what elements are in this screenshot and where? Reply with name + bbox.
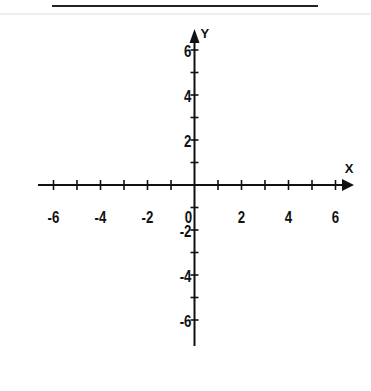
x-axis-tick-labels: -6-4-20246: [48, 207, 340, 226]
y-tick-label: -4: [180, 266, 192, 285]
x-axis-arrowhead-icon: [342, 179, 354, 191]
y-tick-label: 2: [184, 131, 191, 150]
x-tick-label: -2: [142, 207, 154, 226]
x-tick-label: 4: [285, 207, 293, 226]
x-axis: -6-4-20246 X: [38, 161, 354, 226]
x-tick-label: -4: [95, 207, 107, 226]
x-tick-label: 2: [238, 207, 245, 226]
y-tick-label: -2: [180, 221, 192, 240]
coordinate-plane: -6-4-20246 X 642-2-4-6 Y: [0, 0, 371, 391]
y-tick-label: 6: [184, 41, 191, 60]
y-axis-label: Y: [201, 26, 210, 41]
x-tick-label: -6: [48, 207, 60, 226]
y-tick-label: -6: [180, 311, 192, 330]
x-tick-label: 6: [332, 207, 339, 226]
x-axis-label: X: [345, 161, 354, 176]
y-tick-label: 4: [184, 86, 192, 105]
